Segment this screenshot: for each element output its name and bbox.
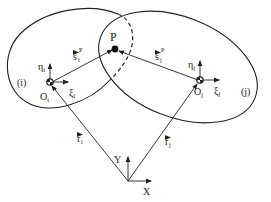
- origin-o-i-label: Oi: [40, 91, 49, 103]
- svg-text:i: i: [78, 56, 80, 63]
- point-p-marker: [112, 46, 119, 53]
- body-j-label: (j): [241, 86, 250, 98]
- vector-r-j-label: r j: [165, 136, 171, 148]
- axis-xi-j-label: ξj: [214, 85, 220, 97]
- vector-r-j: [128, 84, 197, 181]
- axis-global-y-label: Y: [114, 154, 121, 165]
- svg-text:j: j: [168, 141, 171, 148]
- multibody-diagram: P (i) (j) Oi ξi ηi Oj ξj ηj s i P s j P …: [0, 0, 271, 202]
- axis-eta-i-label: ηi: [38, 61, 45, 73]
- axis-xi-i-label: ξi: [69, 87, 75, 99]
- svg-text:i: i: [81, 138, 83, 145]
- vector-s-j-label: s j P: [155, 47, 165, 63]
- vector-r-i-label: r i: [77, 133, 83, 145]
- svg-text:P: P: [161, 47, 165, 53]
- vector-s-i-label: s i P: [73, 47, 83, 63]
- svg-text:P: P: [79, 47, 83, 53]
- point-p-label: P: [110, 30, 117, 44]
- body-i-outline: [7, 9, 118, 108]
- body-i-label: (i): [17, 77, 26, 89]
- vector-r-i: [52, 86, 128, 181]
- axis-global-x-label: X: [143, 186, 151, 197]
- origin-o-j-label: Oj: [194, 86, 203, 98]
- svg-text:j: j: [159, 56, 162, 63]
- axis-eta-j-label: ηj: [188, 59, 195, 71]
